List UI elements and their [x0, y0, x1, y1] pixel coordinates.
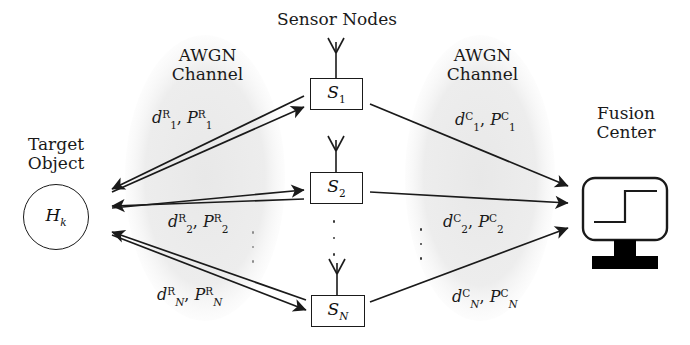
antenna-icon-sensor-N: [329, 259, 345, 295]
sep-2: ,: [468, 212, 478, 231]
d1R-sub: 1: [170, 119, 177, 131]
P2R-sub: 2: [222, 223, 229, 235]
target-object-title: Target Object: [8, 135, 104, 173]
ellipsis-dot: [420, 257, 423, 260]
awgn-left-line1: AWGN: [150, 46, 265, 65]
sensor-node-N[interactable]: SN: [311, 295, 365, 327]
sensor-node-2[interactable]: S2: [310, 172, 363, 204]
awgn-left-title: AWGN Channel: [150, 46, 265, 84]
right-channel-label-1: dC1, PC1: [455, 110, 516, 132]
d1R-sup: R: [162, 108, 170, 120]
fusion-center-title: Fusion Center: [580, 104, 672, 142]
sensor-2-symbol-base: S: [327, 176, 339, 196]
d2C-base: d: [443, 212, 453, 231]
right-channel-label-2: dC2, PC2: [443, 212, 504, 234]
fusion-center-line1: Fusion: [580, 104, 672, 123]
sensor-network-diagram: Sensor Nodes AWGN Channel AWGN Channel T…: [0, 0, 690, 345]
ellipsis-dot: [420, 243, 423, 246]
ellipsis-dot: [252, 260, 255, 263]
ellipsis-dot: [333, 237, 336, 240]
monitor-icon: [583, 178, 667, 269]
right-channel-ellipsis: [417, 228, 425, 260]
sep-1: ,: [177, 108, 187, 127]
left-channel-ellipsis: [249, 231, 257, 263]
P1C-sub: 1: [509, 121, 516, 133]
dNR-base: d: [157, 285, 167, 304]
P1C-base: P: [490, 110, 501, 129]
ellipsis-dot: [333, 253, 336, 256]
sensor-1-symbol-sub: 1: [339, 94, 346, 106]
sensor-N-symbol-base: S: [328, 299, 340, 319]
d1C-base: d: [455, 110, 465, 129]
awgn-right-line1: AWGN: [425, 46, 540, 65]
target-symbol-sub: k: [60, 217, 66, 229]
sep-N: ,: [479, 287, 489, 306]
awgn-right-title: AWGN Channel: [425, 46, 540, 84]
target-symbol-base: H: [45, 205, 60, 225]
awgn-right-line2: Channel: [425, 65, 540, 84]
P1R-sub: 1: [206, 119, 213, 131]
target-object-node[interactable]: Hk: [23, 184, 89, 250]
d1C-sub: 1: [473, 121, 480, 133]
d2R-base: d: [168, 212, 178, 231]
P2R-base: P: [203, 212, 214, 231]
P2C-base: P: [478, 212, 489, 231]
sensor-2-symbol: S2: [311, 176, 362, 198]
sensor-2-symbol-sub: 2: [339, 188, 346, 200]
P1R-base: P: [187, 108, 198, 127]
PNC-sub: N: [508, 298, 517, 310]
fusion-center-line2: Center: [580, 123, 672, 142]
sensor-1-symbol-base: S: [327, 82, 339, 102]
target-symbol: Hk: [24, 205, 88, 227]
dNC-base: d: [452, 287, 462, 306]
awgn-left-line2: Channel: [150, 65, 265, 84]
left-channel-label-1: dR1, PR1: [152, 108, 212, 130]
ellipsis-dot: [333, 220, 336, 223]
target-object-line2: Object: [8, 154, 104, 173]
ellipsis-dot: [252, 231, 255, 234]
d2R-sup: R: [178, 212, 186, 224]
PNR-base: P: [195, 285, 206, 304]
right-channel-label-N: dCN, PCN: [452, 287, 518, 309]
d2R-sub: 2: [186, 223, 193, 235]
sensor-nodes-title: Sensor Nodes: [262, 10, 412, 29]
PNC-base: P: [490, 287, 501, 306]
sensor-list-ellipsis: [330, 220, 338, 256]
sep-2: ,: [193, 212, 203, 231]
PNR-sub: N: [213, 296, 222, 308]
dNR-sup: R: [167, 285, 175, 297]
sep-N: ,: [184, 285, 194, 304]
sensor-1-symbol: S1: [311, 82, 362, 104]
P1R-sup: R: [198, 108, 206, 120]
d1R-base: d: [152, 108, 162, 127]
left-channel-label-2: dR2, PR2: [168, 212, 228, 234]
antenna-icon-sensor-1: [328, 38, 344, 78]
antenna-icon-sensor-2: [328, 136, 344, 172]
sep-1: ,: [480, 110, 490, 129]
P2C-sub: 2: [497, 223, 504, 235]
P2R-sup: R: [214, 212, 222, 224]
left-channel-label-N: dRN, PRN: [157, 285, 222, 307]
sensor-N-symbol-sub: N: [339, 311, 348, 323]
dNR-sub: N: [175, 296, 184, 308]
PNR-sup: R: [205, 285, 213, 297]
ellipsis-dot: [420, 228, 423, 231]
d2C-sub: 2: [461, 223, 468, 235]
P2C-sup: C: [489, 212, 497, 224]
ellipsis-dot: [252, 246, 255, 249]
P1C-sup: C: [501, 110, 509, 122]
dNC-sub: N: [470, 298, 479, 310]
sensor-N-symbol: SN: [312, 299, 364, 321]
sensor-node-1[interactable]: S1: [310, 78, 363, 110]
target-object-line1: Target: [8, 135, 104, 154]
